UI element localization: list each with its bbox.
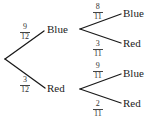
prob-red-denominator: 12 [20, 86, 30, 94]
denominator: 11 [93, 50, 103, 58]
numerator: 8 [95, 3, 101, 11]
numerator: 3 [95, 40, 101, 48]
prob-blue-numerator: 9 [22, 23, 28, 31]
prob-blue-blue: 8 11 [93, 3, 103, 21]
prob-red-red: 2 11 [93, 100, 103, 117]
outcome-red-red: Red [123, 98, 141, 109]
numerator: 2 [95, 100, 101, 108]
outcome-blue-red: Red [123, 38, 141, 49]
outcome-blue: Blue [47, 24, 68, 35]
numerator: 9 [95, 62, 101, 70]
prob-red-blue: 9 11 [93, 62, 103, 80]
outcome-red-blue: Blue [123, 68, 144, 79]
prob-red-numerator: 3 [22, 76, 28, 84]
prob-red: 3 12 [20, 76, 30, 94]
outcome-red: Red [47, 83, 65, 94]
prob-blue-red: 3 11 [93, 40, 103, 58]
denominator: 11 [93, 110, 103, 117]
denominator: 11 [93, 13, 103, 21]
outcome-blue-blue: Blue [123, 8, 144, 19]
prob-blue-denominator: 12 [20, 33, 30, 41]
denominator: 11 [93, 72, 103, 80]
prob-blue: 9 12 [20, 23, 30, 41]
